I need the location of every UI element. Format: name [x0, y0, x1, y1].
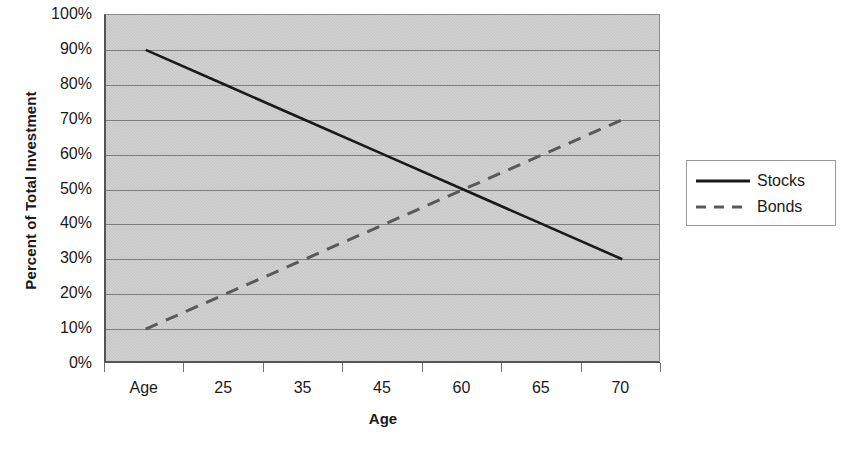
x-tick-mark [263, 363, 264, 372]
x-tick-mark [660, 363, 661, 372]
x-tick-label: Age [104, 378, 183, 398]
x-tick-mark [183, 363, 184, 372]
y-tick-label: 0% [69, 355, 92, 371]
series-lines [106, 15, 660, 363]
chart-legend: StocksBonds [686, 160, 836, 226]
x-axis-tick-marks [104, 363, 662, 372]
y-tick-label: 100% [51, 6, 92, 22]
y-tick-label: 80% [60, 76, 92, 92]
legend-swatch-stocks [695, 174, 751, 188]
legend-label: Stocks [757, 173, 805, 189]
y-tick-label: 90% [60, 41, 92, 57]
y-tick-label: 20% [60, 285, 92, 301]
y-axis-tick-labels: 100%90%80%70%60%50%40%30%20%10%0% [30, 0, 98, 455]
plot-area [104, 14, 660, 363]
x-tick-label: 25 [183, 378, 262, 398]
x-tick-mark [501, 363, 502, 372]
x-tick-mark [104, 363, 105, 372]
legend-entry-bonds[interactable]: Bonds [687, 195, 837, 219]
x-tick-mark [422, 363, 423, 372]
x-tick-label: 35 [263, 378, 342, 398]
y-tick-label: 40% [60, 215, 92, 231]
y-tick-label: 70% [60, 111, 92, 127]
x-axis-tick-labels: Age253545606570 [104, 378, 662, 402]
x-axis-title: Age [104, 410, 662, 427]
x-tick-mark [342, 363, 343, 372]
x-tick-label: 65 [501, 378, 580, 398]
investment-allocation-chart: Percent of Total Investment 100%90%80%70… [0, 0, 844, 455]
x-tick-label: 45 [342, 378, 421, 398]
y-tick-label: 60% [60, 146, 92, 162]
legend-label: Bonds [757, 199, 802, 215]
y-tick-label: 30% [60, 250, 92, 266]
series-line-stocks [146, 50, 623, 259]
legend-swatch-bonds [695, 200, 751, 214]
x-tick-label: 70 [581, 378, 660, 398]
x-tick-mark [581, 363, 582, 372]
x-tick-label: 60 [422, 378, 501, 398]
y-tick-label: 10% [60, 320, 92, 336]
legend-entry-stocks[interactable]: Stocks [687, 169, 837, 193]
series-line-bonds [146, 120, 623, 329]
y-tick-label: 50% [60, 181, 92, 197]
